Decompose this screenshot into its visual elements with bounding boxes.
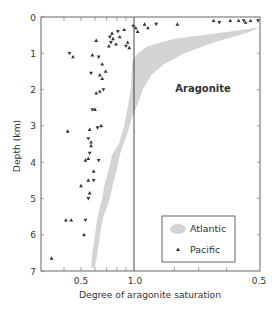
pacific-point [92,169,96,172]
pacific-point [136,30,140,33]
pacific-point [82,233,86,236]
y-tick-6: 6 [30,230,36,240]
pacific-point [88,127,92,130]
pacific-point [94,39,98,42]
atlantic-swatch-icon [170,224,186,234]
pacific-point [64,218,68,221]
pacific-point [143,22,147,25]
aragonite-saturation-chart: 0 1 2 3 4 5 6 7 0.5 1.0 0.5 Degree of ar… [0,0,278,314]
pacific-point [134,26,138,29]
pacific-point [69,218,73,221]
pacific-point [97,159,101,162]
x-tick-mid: 1.0 [128,276,143,286]
pacific-point [66,129,70,132]
y-tick-1: 1 [30,49,36,59]
x-axis-title: Degree of aragonite saturation [79,289,221,300]
pacific-point [86,137,90,140]
pacific-point [109,41,113,44]
y-tick-5: 5 [30,194,36,204]
pacific-point [89,72,93,75]
y-tick-2: 2 [30,85,36,95]
pacific-point [50,256,54,259]
pacific-point [146,26,150,29]
pacific-point [108,36,112,39]
y-tick-4: 4 [30,158,36,168]
pacific-point [89,144,93,147]
pacific-point [100,77,104,80]
pacific-point [89,140,93,143]
pacific-point [96,126,100,129]
x-tick-left: 0.5 [74,276,88,286]
pacific-point [212,19,216,22]
pacific-point [86,178,90,181]
pacific-point [86,157,90,160]
legend: Atlantic Pacific [162,216,235,262]
y-tick-7: 7 [30,267,36,277]
pacific-point [84,158,88,161]
pacific-point [100,62,104,65]
pacific-point [122,28,126,31]
pacific-point [131,25,135,28]
aragonite-annotation: Aragonite [175,83,231,94]
pacific-point [217,21,221,24]
pacific-point [98,73,102,76]
legend-atlantic-label: Atlantic [190,223,226,234]
pacific-point [79,184,83,187]
pacific-point [116,30,120,33]
pacific-point [114,42,118,45]
pacific-point [99,124,103,127]
pacific-point [126,40,130,43]
pacific-point [94,91,98,94]
pacific-point [228,19,232,22]
pacific-point [101,88,105,91]
pacific-point [124,45,128,48]
pacific-point [88,191,92,194]
pacific-point [154,23,158,26]
pacific-point [88,152,92,155]
pacific-point [86,197,90,200]
y-axis-title: Depth (km) [11,120,22,172]
y-tick-3: 3 [30,121,36,131]
y-tick-labels: 0 1 2 3 4 5 6 7 [30,13,36,277]
pacific-point [97,56,101,59]
pacific-point [256,19,260,22]
pacific-point [110,31,114,34]
pacific-point [104,69,108,72]
pacific-point [68,52,72,55]
pacific-point [71,55,75,58]
pacific-point [98,89,102,92]
x-tick-right: 0.5 [252,276,266,286]
pacific-point [111,37,115,40]
pacific-point [92,179,96,182]
y-tick-0: 0 [30,13,36,23]
legend-pacific-label: Pacific [190,244,220,255]
pacific-point [175,22,179,25]
pacific-point [237,19,241,22]
pacific-point [118,35,122,38]
pacific-point [127,46,131,49]
pacific-point [107,44,111,47]
pacific-point [84,219,88,222]
pacific-point [249,19,253,22]
pacific-point [90,53,94,56]
